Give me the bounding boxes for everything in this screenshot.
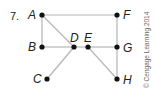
node-label-E: E (84, 31, 93, 45)
node-label-G: G (123, 41, 132, 55)
edge-D-C (47, 47, 74, 79)
node-label-H: H (123, 73, 132, 87)
problem-number: 7. (10, 10, 19, 22)
node-B (39, 44, 44, 49)
node-C (44, 76, 49, 81)
node-label-F: F (123, 8, 131, 22)
node-label-C: C (33, 72, 42, 86)
copyright-text: © Cengage Learning 2014 (143, 11, 151, 88)
node-F (114, 12, 119, 17)
graph-diagram: 7. ABCDEFGH © Cengage Learning 2014 (0, 0, 155, 96)
node-E (85, 44, 90, 49)
node-label-D: D (70, 31, 79, 45)
node-A (39, 12, 44, 17)
node-D (71, 44, 76, 49)
node-G (114, 44, 119, 49)
node-label-B: B (28, 40, 36, 54)
node-label-A: A (27, 8, 36, 22)
node-H (114, 76, 119, 81)
edge-E-H (88, 47, 117, 79)
graph-edges (42, 15, 117, 79)
